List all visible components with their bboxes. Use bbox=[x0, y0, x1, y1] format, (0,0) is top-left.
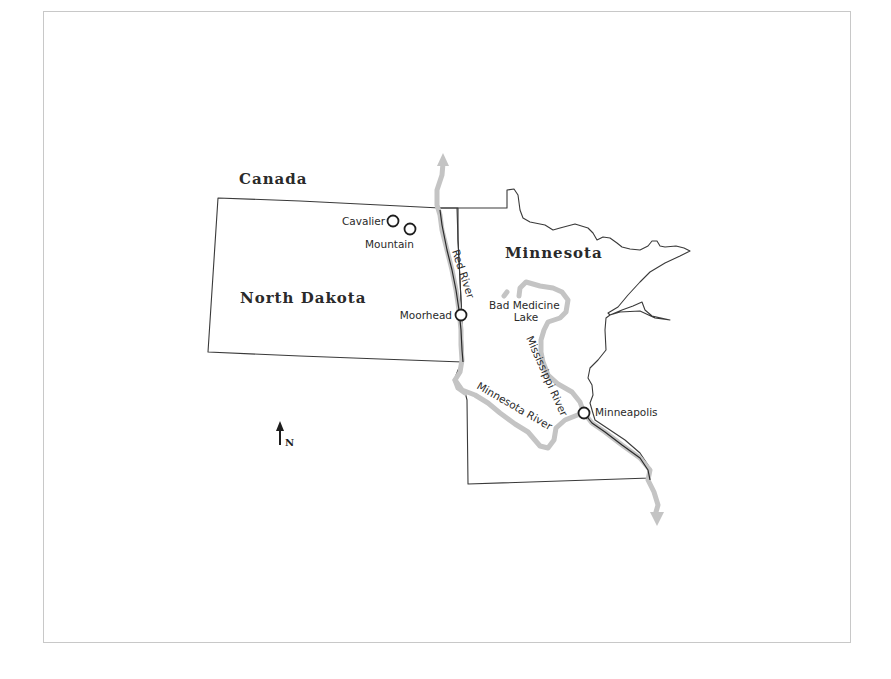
mountain-marker[interactable] bbox=[405, 224, 416, 235]
north-dakota-border bbox=[208, 198, 463, 362]
minnesota-label: Minnesota bbox=[505, 244, 603, 262]
bad-medicine-lake-line1: Bad Medicine bbox=[489, 299, 560, 311]
north-dakota-label: North Dakota bbox=[240, 289, 366, 307]
mountain-label: Mountain bbox=[365, 238, 414, 250]
cavalier-label: Cavalier bbox=[342, 215, 386, 227]
minneapolis-label: Minneapolis bbox=[595, 406, 658, 418]
mississippi-river-south-arrow bbox=[650, 512, 664, 526]
mississippi-river-label: Mississippi River bbox=[524, 334, 570, 419]
north-label: N bbox=[285, 437, 294, 448]
canada-label: Canada bbox=[239, 170, 308, 188]
minnesota-border bbox=[440, 189, 690, 484]
bad-medicine-lake-line2: Lake bbox=[514, 311, 538, 323]
cavalier-marker[interactable] bbox=[388, 216, 399, 227]
moorhead-label: Moorhead bbox=[400, 309, 452, 321]
minneapolis-marker[interactable] bbox=[579, 408, 590, 419]
map-canvas: Canada North Dakota Minnesota Cavalier M… bbox=[0, 0, 891, 679]
north-arrow-icon bbox=[276, 421, 284, 445]
moorhead-marker[interactable] bbox=[456, 310, 467, 321]
red-river-north-arrow bbox=[437, 153, 449, 166]
